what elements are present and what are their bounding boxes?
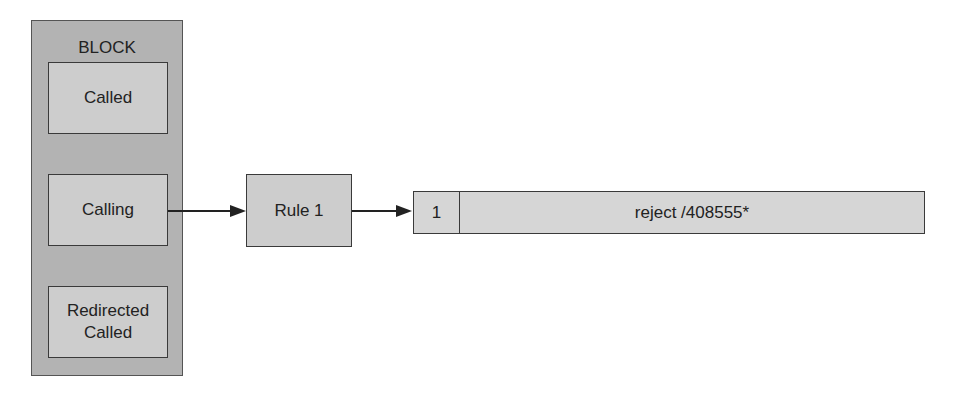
redirected-called-box: Redirected Called: [48, 286, 168, 358]
rule-entry-action: reject /408555*: [460, 192, 924, 233]
rule-label: Rule 1: [274, 200, 323, 222]
rule-entry-index: 1: [414, 192, 460, 233]
calling-box: Calling: [48, 174, 168, 246]
calling-label: Calling: [82, 199, 134, 221]
block-title: BLOCK: [32, 38, 182, 58]
called-box: Called: [48, 62, 168, 134]
redirected-called-label: Redirected Called: [67, 300, 149, 344]
arrow-line-calling-to-rule: [168, 210, 232, 212]
arrow-line-rule-to-entry: [352, 210, 398, 212]
rule-entry-row: 1 reject /408555*: [413, 191, 925, 234]
called-label: Called: [84, 87, 132, 109]
rule-box: Rule 1: [246, 174, 352, 247]
arrowhead-icon: [230, 205, 246, 217]
arrowhead-icon: [396, 205, 412, 217]
